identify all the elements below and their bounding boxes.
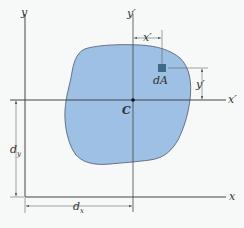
x-prime-axis-label: x′ bbox=[228, 93, 237, 106]
y-prime-dim-label: y′ bbox=[195, 78, 205, 91]
centroid-label: C bbox=[122, 104, 131, 117]
y-axis-label: y bbox=[20, 6, 28, 19]
da-element bbox=[158, 64, 166, 72]
parallel-axis-diagram: y x y′ x′ C dA x′ y′ dy dx bbox=[0, 0, 244, 228]
dx-label: dx bbox=[73, 200, 84, 215]
y-prime-axis-label: y′ bbox=[126, 7, 136, 20]
da-label: dA bbox=[153, 74, 168, 87]
dy-label: dy bbox=[10, 143, 22, 158]
x-axis-label: x bbox=[229, 190, 236, 203]
x-prime-dim-label: x′ bbox=[143, 31, 152, 44]
centroid-point bbox=[131, 98, 135, 102]
